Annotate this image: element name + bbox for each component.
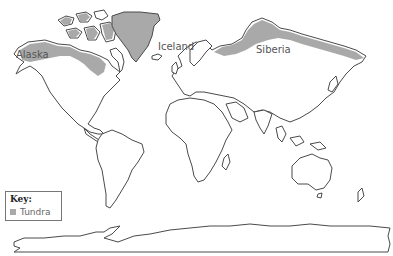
british-isles	[172, 62, 178, 74]
southeast-asia-islands	[276, 126, 326, 150]
map-label-iceland: Iceland	[158, 42, 194, 52]
south-america	[96, 130, 144, 208]
iceland	[152, 54, 162, 60]
tasmania	[317, 193, 322, 198]
new-zealand	[358, 188, 364, 202]
india	[254, 110, 272, 134]
key-item-tundra: Tundra	[10, 207, 57, 217]
map-label-siberia: Siberia	[256, 45, 291, 55]
tundra-swatch-icon	[10, 209, 16, 215]
map-key: Key: Tundra	[5, 191, 62, 221]
madagascar	[222, 154, 230, 170]
africa	[166, 98, 232, 182]
key-title: Key:	[10, 194, 57, 204]
key-item-label: Tundra	[20, 207, 50, 217]
antarctica	[14, 224, 390, 252]
australia	[292, 154, 332, 190]
map-label-alaska: Alaska	[16, 50, 49, 60]
